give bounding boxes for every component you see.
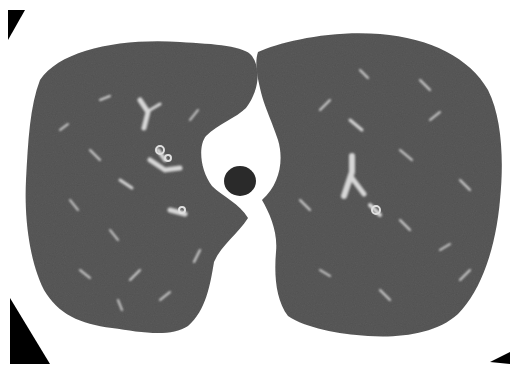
trachea [224, 166, 256, 196]
ct-scan-image [0, 0, 510, 374]
ct-scan-svg [0, 0, 510, 374]
